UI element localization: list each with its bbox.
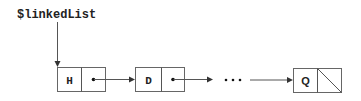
arrowhead-icon: [287, 77, 293, 83]
ellipsis-icon: [225, 79, 242, 82]
next-pointer-arrow: [250, 77, 293, 83]
node-value: H: [66, 75, 73, 87]
arrowhead-icon: [207, 77, 213, 83]
head-pointer-arrow: [55, 22, 61, 67]
arrowhead-icon: [129, 77, 135, 83]
arrowhead-icon: [55, 61, 61, 67]
linked-list-diagram: $linkedList H D: [0, 0, 361, 101]
node-value: D: [145, 75, 152, 87]
head-pointer-label: $linkedList: [17, 8, 96, 22]
node-value: Q: [301, 75, 310, 87]
list-node-q: Q: [294, 69, 342, 93]
